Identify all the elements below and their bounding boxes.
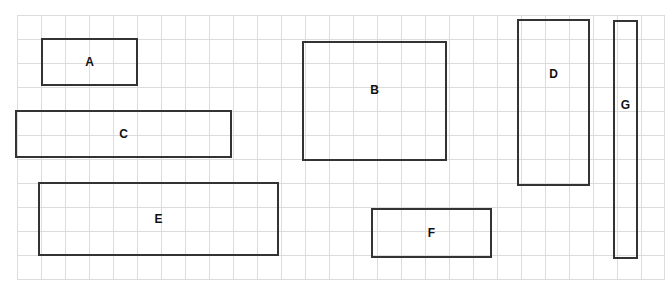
box-a-label: A [85, 55, 94, 69]
box-b-label: B [370, 83, 379, 97]
box-b: B [302, 41, 447, 161]
box-c: C [15, 110, 232, 158]
box-f-label: F [428, 226, 435, 240]
box-f: F [371, 208, 492, 258]
box-g: G [613, 20, 638, 259]
box-e: E [38, 182, 279, 256]
box-g-label: G [621, 98, 630, 112]
box-a: A [41, 38, 138, 86]
box-d: D [517, 19, 590, 186]
box-d-label: D [549, 67, 558, 81]
box-c-label: C [119, 127, 128, 141]
box-e-label: E [154, 212, 162, 226]
